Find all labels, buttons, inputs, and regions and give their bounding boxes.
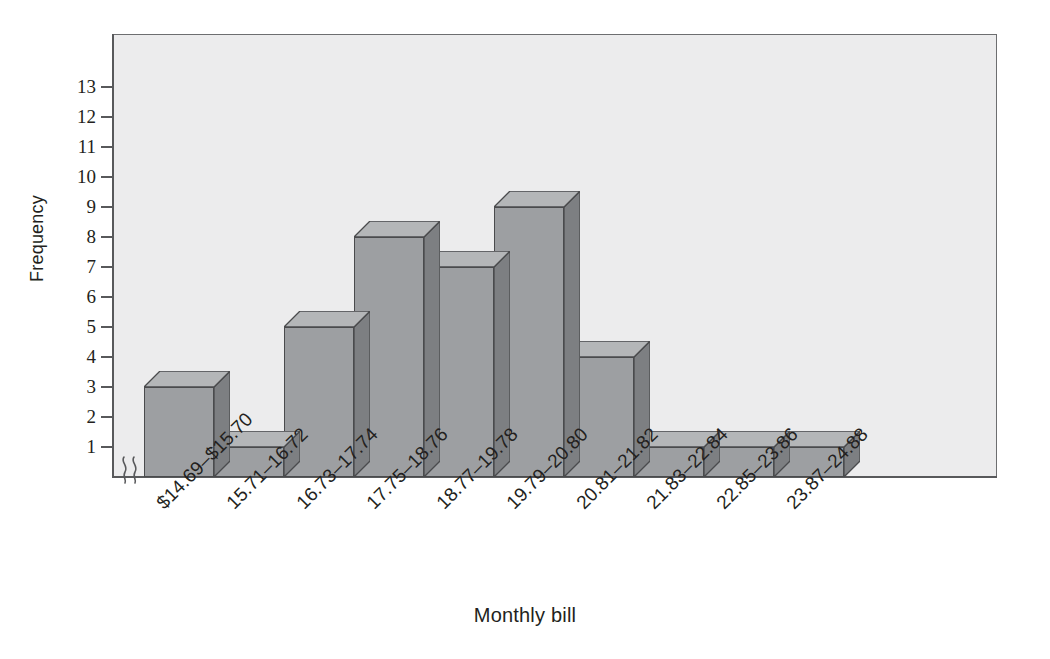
histogram-figure: 12345678910111213 Frequency Monthly bill… (0, 0, 1050, 659)
x-axis-tick-labels: $14.69–$15.7015.71–16.7216.73–17.7417.75… (0, 0, 1050, 659)
